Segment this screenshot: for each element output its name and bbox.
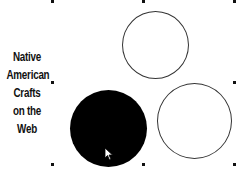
selection-handle-icon[interactable] (233, 0, 236, 3)
selection-handle-icon[interactable] (51, 0, 54, 3)
title-line-5: Web (7, 120, 48, 138)
title-line-2: American (7, 66, 48, 84)
selection-handle-icon[interactable] (233, 163, 236, 166)
title-text: Native American Crafts on the Web (7, 48, 48, 138)
title-line-3: Crafts (7, 84, 48, 102)
right-circle[interactable] (157, 83, 232, 159)
selection-handle-icon[interactable] (142, 0, 145, 3)
title-line-4: on the (7, 102, 48, 120)
arrow-pointer-icon (104, 147, 114, 161)
top-circle[interactable] (122, 11, 189, 79)
selection-handle-icon[interactable] (142, 163, 145, 166)
title-line-1: Native (7, 48, 48, 66)
selection-handle-icon[interactable] (51, 81, 54, 84)
selection-handle-icon[interactable] (51, 163, 54, 166)
selection-handle-icon[interactable] (233, 81, 236, 84)
